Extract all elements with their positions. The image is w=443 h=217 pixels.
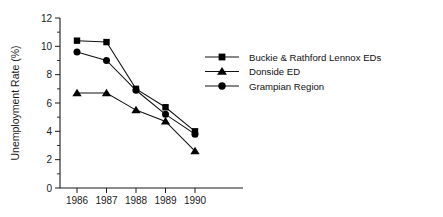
y-axis-tick-label: 0	[46, 183, 52, 194]
marker-square	[219, 54, 226, 61]
legend-item: Donside ED	[205, 66, 300, 77]
chart-legend: Buckie & Rathford Lennox EDsDonside EDGr…	[205, 52, 381, 92]
y-axis-label: Unemployment Rate (%)	[9, 46, 21, 161]
legend-item: Buckie & Rathford Lennox EDs	[205, 52, 381, 63]
x-axis-tick-label: 1989	[154, 195, 177, 206]
x-axis-tick-label: 1986	[66, 195, 89, 206]
marker-circle	[162, 111, 169, 118]
y-axis: 024681012	[41, 13, 60, 194]
legend-label: Buckie & Rathford Lennox EDs	[249, 52, 381, 63]
marker-square	[103, 39, 109, 45]
chart-canvas: Unemployment Rate (%) 024681012 19861987…	[0, 0, 443, 217]
marker-circle	[103, 57, 110, 64]
marker-triangle	[72, 89, 81, 96]
x-axis-tick-label: 1990	[184, 195, 207, 206]
marker-circle	[74, 49, 81, 56]
y-axis-tick-label: 8	[46, 69, 52, 80]
y-axis-tick-label: 10	[41, 41, 53, 52]
y-axis-tick-label: 2	[46, 154, 52, 165]
marker-square	[74, 37, 80, 43]
data-series-group	[72, 37, 199, 154]
x-axis-tick-label: 1987	[95, 195, 118, 206]
unemployment-rate-line-chart: Unemployment Rate (%) 024681012 19861987…	[0, 0, 443, 217]
marker-circle	[133, 87, 140, 94]
y-axis-tick-label: 6	[46, 98, 52, 109]
marker-square	[162, 104, 168, 110]
y-axis-tick-label: 4	[46, 126, 52, 137]
data-series	[72, 89, 199, 155]
marker-triangle	[102, 89, 111, 96]
legend-label: Donside ED	[249, 66, 300, 77]
marker-triangle	[131, 106, 140, 113]
legend-item: Grampian Region	[205, 81, 324, 92]
marker-triangle	[161, 117, 170, 124]
marker-circle	[218, 82, 225, 89]
data-series	[74, 37, 198, 134]
x-axis-tick-label: 1988	[125, 195, 148, 206]
y-axis-tick-label: 12	[41, 13, 53, 24]
marker-triangle	[217, 67, 227, 75]
legend-label: Grampian Region	[249, 81, 324, 92]
x-axis: 19861987198819891990	[60, 188, 243, 206]
marker-circle	[192, 131, 199, 138]
